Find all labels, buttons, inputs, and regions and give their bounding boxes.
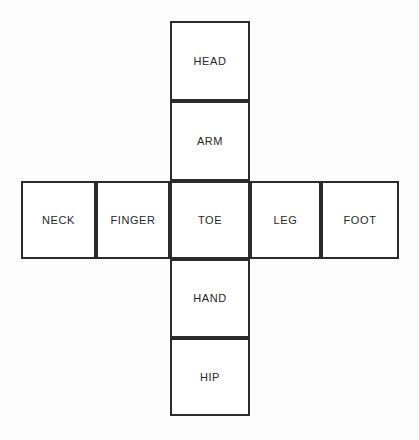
net-cell-head: HEAD [170, 21, 250, 101]
net-cell-label-head: HEAD [194, 56, 227, 67]
net-cell-label-arm: ARM [197, 136, 223, 147]
cube-net-diagram: HEAD ARM NECK FINGER TOE LEG FOOT HAND H… [0, 0, 419, 440]
net-cell-label-leg: LEG [274, 215, 298, 226]
net-cell-label-toe: TOE [198, 215, 222, 226]
net-cell-finger: FINGER [96, 181, 170, 259]
net-cell-leg: LEG [250, 181, 321, 259]
net-cell-label-hip: HIP [200, 372, 220, 383]
net-cell-arm: ARM [170, 101, 250, 181]
net-cell-hand: HAND [170, 259, 250, 338]
net-cell-label-hand: HAND [193, 293, 227, 304]
net-cell-foot: FOOT [321, 181, 399, 259]
net-cell-hip: HIP [170, 338, 250, 416]
net-cell-label-finger: FINGER [110, 215, 155, 226]
net-cell-toe: TOE [170, 181, 250, 259]
net-cell-label-neck: NECK [42, 215, 75, 226]
net-cell-neck: NECK [21, 181, 96, 259]
net-cell-label-foot: FOOT [344, 215, 377, 226]
